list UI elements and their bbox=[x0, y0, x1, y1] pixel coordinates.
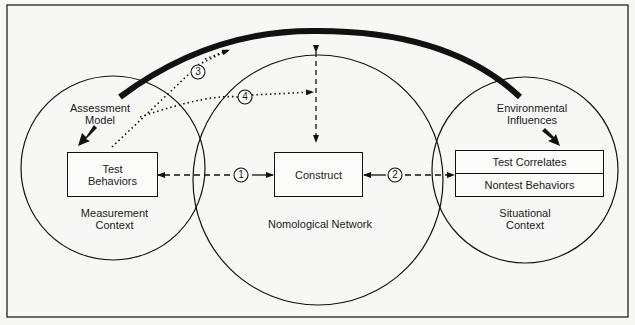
path-label-4: 4 bbox=[238, 91, 252, 103]
path-label-2: 2 bbox=[388, 169, 402, 181]
influence-arc bbox=[120, 31, 520, 97]
path-label-1: 1 bbox=[234, 169, 248, 181]
assessment-model-label: Assessment Model bbox=[60, 102, 140, 126]
nontest-behaviors-box: Nontest Behaviors bbox=[455, 173, 604, 197]
assessment-arrow bbox=[78, 125, 97, 146]
situational-context-label: Situational Context bbox=[480, 207, 570, 231]
path-label-3: 3 bbox=[191, 66, 205, 78]
test-correlates-box: Test Correlates bbox=[455, 150, 604, 174]
measurement-context-label: Measurement Context bbox=[62, 207, 167, 231]
test-behaviors-box: Test Behaviors bbox=[67, 152, 158, 197]
nomological-network-label: Nomological Network bbox=[255, 218, 385, 230]
environmental-influences-label: Environmental Influences bbox=[482, 102, 582, 126]
construct-box: Construct bbox=[274, 152, 363, 197]
environmental-arrow bbox=[542, 128, 560, 146]
